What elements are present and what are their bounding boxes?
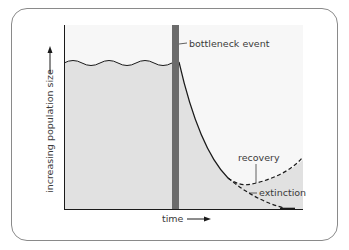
arrow-right-icon [187, 217, 211, 222]
bottleneck-event-label: bottleneck event [189, 38, 270, 49]
extinction-label: extinction [259, 187, 306, 198]
population-fill-before [64, 61, 172, 210]
bottleneck-bar [172, 25, 179, 209]
arrow-up-icon [48, 46, 53, 73]
recovery-label: recovery [238, 152, 280, 163]
y-axis-label: increasing population size [44, 69, 55, 193]
x-axis-label: time [162, 213, 184, 224]
bottleneck-diagram: bottleneck event recovery extinction tim… [0, 0, 349, 250]
